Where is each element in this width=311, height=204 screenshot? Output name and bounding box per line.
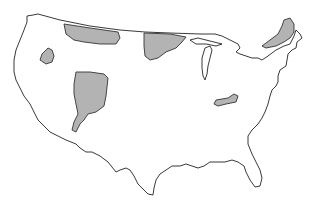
us-map	[0, 0, 311, 204]
northeast-region	[262, 18, 294, 48]
